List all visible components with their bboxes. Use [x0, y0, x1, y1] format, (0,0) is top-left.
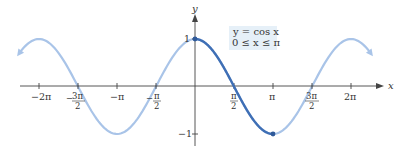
x-axis-arrow-icon: [376, 83, 384, 89]
x-tick-label-2pi: 2π: [344, 91, 356, 102]
x-axis-label: x: [388, 80, 394, 91]
y-tick-label-neg1: −1: [178, 128, 192, 139]
endpoint-dot-start: [193, 37, 198, 42]
x-tick-label-3pi2: 3π 2: [305, 91, 319, 111]
annotation-box: y = cos x 0 ≤ x ≤ π: [229, 26, 280, 50]
svg-text:π: π: [154, 91, 160, 101]
x-tick-label-negpi2: − π 2: [146, 91, 161, 111]
svg-text:2: 2: [231, 101, 236, 111]
cosine-curve-highlighted: [195, 39, 273, 134]
svg-text:2: 2: [154, 101, 159, 111]
svg-text:3π: 3π: [306, 91, 317, 101]
x-tick-label-pi: π: [269, 91, 275, 102]
y-axis-arrow-icon: [192, 14, 198, 22]
svg-text:−: −: [146, 93, 153, 103]
svg-text:2: 2: [75, 101, 80, 111]
x-tick-label-neg2pi: −2π: [31, 91, 51, 102]
cosine-chart: x y 1 −1 −2π − 3π 2 −π − π 2 π 2 π 3π: [0, 0, 394, 152]
svg-text:3π: 3π: [72, 91, 83, 101]
x-tick-label-neg3pi2: − 3π 2: [66, 91, 85, 111]
annotation-line-2: 0 ≤ x ≤ π: [232, 37, 280, 48]
y-axis-label: y: [191, 3, 198, 14]
endpoint-dot-end: [271, 132, 276, 137]
svg-text:2: 2: [309, 101, 314, 111]
y-tick-label-1: 1: [184, 33, 190, 44]
annotation-line-1: y = cos x: [232, 26, 279, 37]
x-tick-label-negpi: −π: [110, 91, 124, 102]
